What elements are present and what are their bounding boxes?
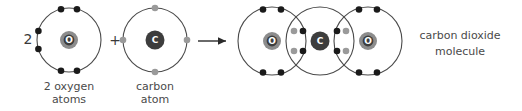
electron-dot <box>58 67 65 74</box>
electron-dot <box>152 69 159 76</box>
shared-electron-dot <box>343 48 350 55</box>
electron-dot <box>356 69 363 76</box>
carbon-nucleus-symbol: C <box>152 35 159 45</box>
oxygen-nucleus-symbol: O <box>65 35 73 45</box>
electron-dot <box>374 6 381 13</box>
electron-dot <box>260 6 267 13</box>
shared-electron-dot <box>291 48 298 55</box>
electron-dot <box>356 6 363 13</box>
electron-dot <box>120 37 127 44</box>
co2-right-oxygen-symbol: O <box>364 36 372 46</box>
electron-dot <box>260 69 267 76</box>
co2-carbon-nucleus: C <box>311 32 330 51</box>
electron-dot <box>278 69 285 76</box>
electron-dot <box>184 37 191 44</box>
co2-left-oxygen-nucleus: O <box>263 32 281 50</box>
oxygen-caption-line1: 2 oxygen <box>44 80 95 93</box>
coefficient-2: 2 <box>24 31 33 47</box>
electron-dot <box>374 69 381 76</box>
shared-electron-dot <box>300 28 307 35</box>
reactant-carbon-atom: C carbon atom <box>120 5 191 106</box>
carbon-caption-line1: carbon <box>136 80 174 93</box>
shared-electron-dot <box>343 28 350 35</box>
carbon-caption-line2: atom <box>141 93 170 106</box>
co2-left-oxygen-symbol: O <box>268 36 276 46</box>
shared-electron-dot <box>334 28 341 35</box>
oxygen-nucleus: O <box>60 31 78 49</box>
shared-electron-dot <box>334 48 341 55</box>
electron-dot <box>74 6 81 13</box>
plus-sign: + <box>109 32 121 48</box>
electron-dot <box>35 46 42 53</box>
electron-dot <box>152 5 159 12</box>
co2-right-double-bond <box>334 28 350 55</box>
diagram-canvas: 2 O 2 oxygen atoms + C <box>0 0 522 111</box>
electron-dot <box>278 6 285 13</box>
product-caption-line2: molecule <box>435 45 485 58</box>
product-carbon-dioxide-molecule: O C O <box>238 6 402 76</box>
carbon-nucleus: C <box>146 31 165 50</box>
reaction-arrow <box>198 37 226 45</box>
co2-left-double-bond <box>291 28 307 55</box>
electron-dot <box>35 28 42 35</box>
electron-dot <box>74 67 81 74</box>
reactant-oxygen-atom: O 2 oxygen atoms <box>35 6 101 106</box>
shared-electron-dot <box>291 28 298 35</box>
co2-carbon-symbol: C <box>317 36 324 46</box>
shared-electron-dot <box>300 48 307 55</box>
oxygen-caption-line2: atoms <box>52 93 86 106</box>
product-caption-line1: carbon dioxide <box>419 29 500 42</box>
electron-dot <box>58 6 65 13</box>
co2-right-oxygen-nucleus: O <box>359 32 377 50</box>
